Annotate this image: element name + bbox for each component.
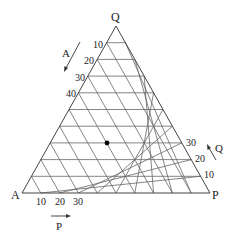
grid-line: [31, 176, 40, 193]
q-tick-30: 30: [186, 137, 196, 148]
p-tick-20: 20: [55, 196, 65, 207]
grid-line: [125, 43, 191, 193]
q-tick-10: 10: [204, 169, 214, 180]
vertex-label-a: A: [11, 188, 20, 202]
grid-line: [50, 143, 78, 193]
grid-line: [116, 110, 163, 194]
triangle-grid: [31, 43, 200, 193]
ternary-diagram: Q A P 10 20 30 40 A 10 20 30 P 30 20 10 …: [0, 0, 239, 240]
p-axis-label: P: [56, 220, 62, 232]
p-tick-30: 30: [73, 196, 83, 207]
a-arrowhead-icon: [64, 66, 68, 72]
grid-line: [69, 110, 116, 194]
q-arrowhead-icon: [207, 144, 211, 150]
grid-line: [88, 76, 154, 193]
vertex-label-q: Q: [111, 10, 120, 24]
p-arrowhead-icon: [66, 214, 71, 218]
a-tick-30: 30: [75, 72, 85, 83]
a-tick-40: 40: [66, 88, 76, 99]
vertex-label-p: P: [212, 188, 219, 202]
q-axis-label: Q: [215, 142, 223, 154]
q-tick-20: 20: [195, 153, 205, 164]
marked-point: [105, 141, 110, 146]
a-tick-20: 20: [84, 55, 94, 66]
a-axis-label: A: [62, 47, 70, 59]
a-tick-10: 10: [93, 39, 103, 50]
p-tick-10: 10: [36, 196, 46, 207]
